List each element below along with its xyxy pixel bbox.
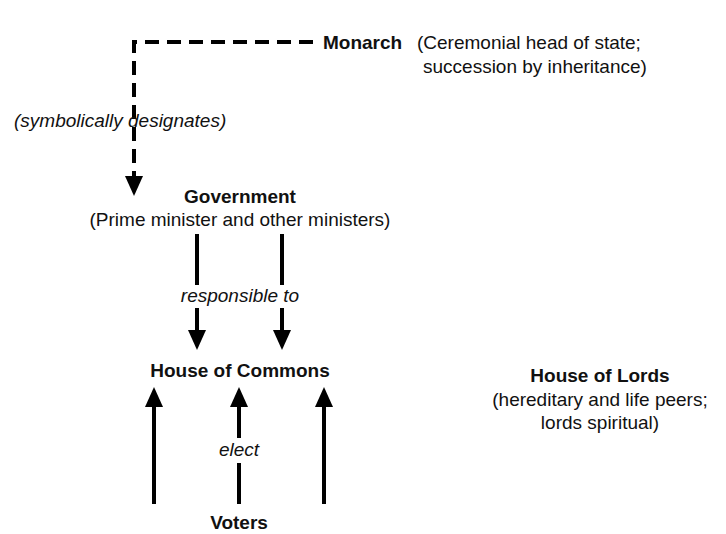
lords-desc-line2: lords spiritual)	[480, 412, 720, 434]
monarch-desc-line1: (Ceremonial head of state;	[417, 32, 641, 54]
edge-label-responsible-to: responsible to	[140, 285, 340, 307]
lords-desc-line1: (hereditary and life peers;	[480, 389, 720, 411]
government-title: Government	[0, 186, 480, 208]
government-desc: (Prime minister and other ministers)	[0, 209, 480, 231]
monarch-title: Monarch	[323, 32, 402, 54]
voters-title: Voters	[189, 512, 289, 534]
arrowhead-voters-middle	[230, 387, 248, 407]
arrowhead-voters-left	[145, 387, 163, 407]
arrowhead-commons-right	[273, 330, 291, 350]
commons-title: House of Commons	[140, 360, 340, 382]
edge-label-designates: (symbolically designates)	[14, 110, 226, 132]
arrowhead-commons-left	[188, 330, 206, 350]
diagram-connectors	[0, 0, 726, 534]
edge-label-elect: elect	[189, 439, 289, 461]
monarch-desc-line2: succession by inheritance)	[423, 56, 647, 78]
lords-title: House of Lords	[480, 365, 720, 387]
arrowhead-voters-right	[315, 387, 333, 407]
